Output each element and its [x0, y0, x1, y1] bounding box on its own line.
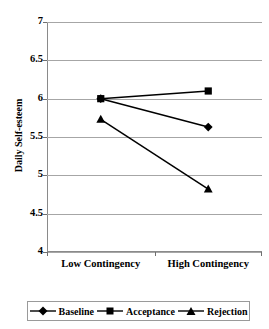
square-marker-icon	[205, 87, 212, 94]
y-tick-label: 4.5	[13, 208, 43, 219]
y-tick-label: 7	[13, 16, 43, 27]
diamond-marker-icon	[30, 305, 56, 317]
y-tick-label: 5.5	[13, 131, 43, 142]
series-line	[101, 99, 209, 127]
y-tick-label: 6	[13, 93, 43, 104]
y-tick-label: 5	[13, 169, 43, 180]
x-axis-tickmark	[47, 252, 48, 256]
y-tick-label: 4	[13, 246, 43, 257]
data-series-layer	[47, 22, 262, 252]
triangle-marker-icon	[204, 185, 213, 193]
square-marker-icon	[97, 95, 104, 102]
x-axis-labels: Low Contingency High Contingency	[47, 258, 262, 274]
legend-label: Baseline	[59, 306, 95, 317]
x-axis-tickmark	[261, 252, 262, 256]
y-axis-tick-labels: 7 6.5 6 5.5 5 4.5 4	[12, 0, 43, 329]
legend-item-rejection: Rejection	[178, 305, 248, 317]
legend-item-baseline: Baseline	[30, 305, 95, 317]
triangle-marker-icon	[178, 305, 204, 317]
legend-label: Acceptance	[126, 306, 175, 317]
legend-item-acceptance: Acceptance	[97, 305, 175, 317]
x-tick-label: High Contingency	[153, 258, 263, 269]
series-line	[101, 91, 209, 99]
legend-label: Rejection	[207, 306, 248, 317]
chart-legend: Baseline Acceptance Rejection	[27, 301, 250, 321]
series-line	[101, 119, 209, 189]
y-tick-label: 6.5	[13, 54, 43, 65]
triangle-marker-icon	[96, 115, 105, 123]
x-tick-label: Low Contingency	[46, 258, 156, 269]
diamond-marker-icon	[204, 123, 213, 132]
chart-container: Daily Self-esteem 7 6.5 6 5.5 5 4.5 4 Lo…	[0, 0, 269, 329]
x-axis-tickmark	[155, 252, 156, 256]
square-marker-icon	[97, 305, 123, 317]
plot-area	[47, 22, 262, 252]
